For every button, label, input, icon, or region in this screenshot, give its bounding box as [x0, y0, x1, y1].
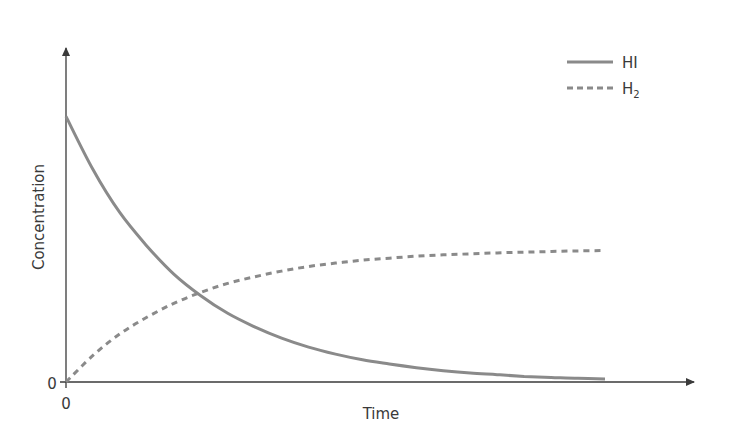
y-axis-title: Concentration — [30, 164, 48, 270]
x-origin-label: 0 — [61, 395, 71, 413]
x-axis-title: Time — [362, 405, 400, 423]
legend: HI H2 — [567, 54, 640, 100]
legend-h2-label: H2 — [622, 80, 640, 100]
hi-curve — [66, 116, 605, 379]
concentration-time-chart: 0 0 Time Concentration HI H2 — [0, 0, 738, 448]
h2-curve — [66, 251, 605, 383]
y-origin-label: 0 — [47, 375, 57, 393]
legend-hi-label: HI — [622, 54, 638, 72]
